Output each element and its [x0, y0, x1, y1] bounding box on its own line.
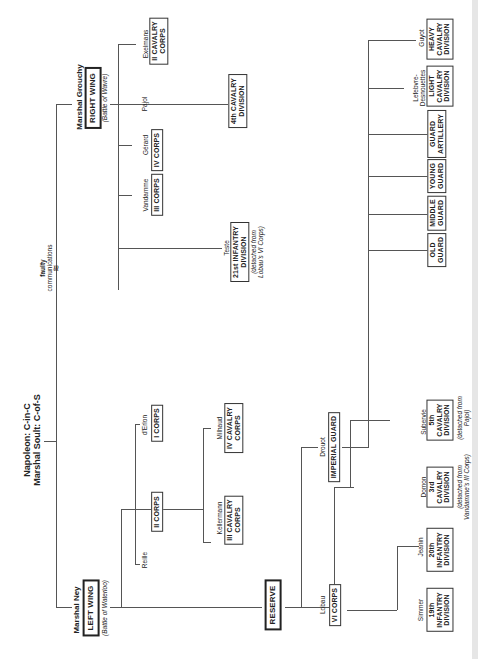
kellermann-connector [203, 542, 211, 543]
main-spine [56, 104, 57, 608]
jeanin-name: Jeanin [417, 537, 424, 556]
21st-l1: 21st INFANTRY [232, 226, 240, 278]
heavy-cavalry-division-box: HEAVY CAVALRY DIVISION [426, 18, 453, 59]
iv-corps-box: IV CORPS [151, 129, 163, 171]
light-cavalry-division-box: LIGHT CAVALRY DIVISION [426, 65, 453, 106]
vandamme-connector [118, 195, 132, 196]
3rd-l2: CAVALRY [436, 470, 444, 503]
iii-cavalry-corps-box: III CAVALRY CORPS [224, 495, 243, 544]
teste-connector [118, 248, 222, 249]
subervie-note-l1: (detached from [456, 396, 463, 440]
reserve-box: RESERVE [265, 580, 282, 631]
left-wing-note: (Battle of Waterloo) [101, 580, 108, 636]
teste-note-l1: (detached from [250, 226, 257, 278]
3rd-l3: DIVISION [444, 470, 452, 503]
grouchy-spine [118, 44, 119, 290]
light-cav-l3: DIVISION [444, 69, 452, 102]
middle-guard-l2: GUARD [437, 199, 445, 226]
exelmans-connector [118, 44, 136, 45]
19th-l3: DIVISION [444, 592, 452, 628]
derlon-name: d'Erlon [141, 415, 148, 435]
iii-cav-l1: III CAVALRY [226, 499, 234, 540]
lefebvre-l1: Lefebvre- [412, 70, 419, 107]
guyot-name: Guyot [418, 29, 425, 46]
subervie-note-l2: Pajol) [463, 396, 470, 440]
young-guard-connector [368, 176, 430, 177]
pajol-connector [148, 104, 228, 105]
guard-artillery-l1: GUARD [429, 114, 437, 154]
guard-artillery-l2: ARTILLERY [437, 114, 445, 154]
20th-infantry-division-box: 20th INFANTRY DIVISION [426, 528, 453, 572]
3rd-cavalry-division-box: 3rd CAVALRY DIVISION [426, 466, 453, 507]
19th-infantry-division-box: 19th INFANTRY DIVISION [426, 588, 453, 632]
20th-l3: DIVISION [444, 532, 452, 568]
lefebvre-connector [368, 88, 404, 89]
light-cav-l1: LIGHT [428, 69, 436, 102]
left-wing-box: LEFT WING [83, 580, 100, 637]
5th-l2: CAVALRY [436, 403, 444, 436]
gerard-connector [118, 145, 132, 146]
hq-line-2: Marshal Soult: C-of-S [33, 394, 43, 486]
heavy-cav-l3: DIVISION [444, 22, 452, 55]
20th-l1: 20th [428, 532, 436, 568]
derlon-connector [135, 424, 140, 425]
5th-cavalry-division-box: 5th CAVALRY DIVISION [426, 399, 453, 440]
cavalry-corps-spine [203, 428, 204, 542]
light-cav-l2: CAVALRY [436, 69, 444, 102]
old-guard-connector [368, 250, 430, 251]
young-guard-box: YOUNG GUARD [427, 159, 446, 193]
middle-guard-l1: MIDDLE [429, 199, 437, 226]
domon-note: (detached from Vandamme's III Corps) [456, 454, 470, 520]
subervie-connector [350, 420, 390, 421]
milhaud-name: Milhaud [216, 417, 223, 440]
ii-cav-l1: II CAVALRY [151, 21, 159, 60]
ney-name: Marshal Ney [73, 586, 82, 633]
21st-infantry-division-box: 21st INFANTRY DIVISION [230, 222, 249, 282]
domon-note-l1: (detached from [456, 454, 463, 520]
pajol-name: Pajol [141, 97, 148, 111]
drouot-connector [301, 447, 318, 448]
young-guard-l1: YOUNG [429, 163, 437, 189]
grouchy-connector [56, 104, 72, 105]
drouot-name: Drouot [319, 437, 326, 457]
domon-note-l2: Vandamme's III Corps) [463, 454, 470, 520]
lobau-name: Lobau [319, 596, 326, 614]
hq-connector [44, 441, 56, 442]
21st-l2: DIVISION [240, 226, 248, 278]
reserve-spine [301, 447, 302, 607]
middle-guard-connector [368, 214, 430, 215]
left-wing-spine [121, 509, 122, 607]
ii-corps-box: II CORPS [151, 492, 163, 532]
gerard-name: Gérard [142, 135, 149, 155]
ney-connector [56, 607, 72, 608]
ii-cav-l2: CORPS [159, 21, 167, 60]
4th-cav-l1: 4th CAVALRY [230, 78, 238, 124]
3rd-l1: 3rd [428, 470, 436, 503]
young-guard-l2: GUARD [437, 163, 445, 189]
guard-stem [342, 447, 368, 448]
vi-corps-spine-low [397, 546, 398, 610]
faulty-line-1: faulty [39, 245, 46, 292]
teste-note-l2: Lobau's VI Corps) [257, 226, 264, 278]
iv-cav-l1: IV CAVALRY [226, 407, 234, 449]
20th-l2: INFANTRY [436, 532, 444, 568]
imperial-guard-box: IMPERIAL GUARD [328, 412, 340, 482]
5th-l1: 5th [428, 403, 436, 436]
heavy-cav-l2: CAVALRY [436, 22, 444, 55]
subervie-note: (detached from Pajol) [456, 396, 470, 440]
domon-connector [334, 487, 354, 488]
19th-l1: 19th [428, 592, 436, 628]
left-wing-line [110, 607, 262, 608]
4th-cav-l2: DIVISION [238, 78, 246, 124]
page-edge-shadow [472, 0, 478, 659]
ii-cavalry-corps-box: II CAVALRY CORPS [149, 17, 168, 64]
kellermann-name: Kellermann [216, 502, 223, 535]
milhaud-connector [203, 428, 211, 429]
lefebvre-l2: Desnouettes [419, 70, 426, 107]
cav-div-spine [350, 420, 351, 487]
iv-cav-l2: CORPS [234, 407, 242, 449]
vi-corps-box: VI CORPS [329, 584, 341, 626]
teste-note: (detached from Lobau's VI Corps) [250, 226, 264, 278]
reille-connector [135, 564, 140, 565]
reille-name: Reille [141, 552, 148, 568]
